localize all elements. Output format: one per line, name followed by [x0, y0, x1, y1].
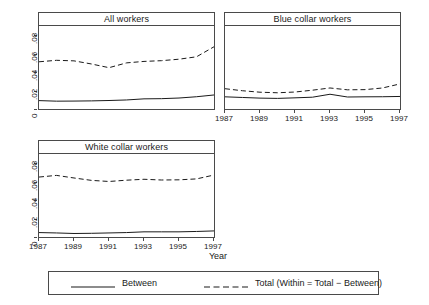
panel-blue-collar-workers: Blue collar workers: [224, 12, 401, 110]
plot-area: [38, 26, 215, 110]
plot-lines: [225, 26, 400, 109]
legend-label: Between: [122, 279, 157, 288]
x-tick-label: 1997: [199, 243, 227, 251]
y-tick-mark: [34, 109, 37, 110]
x-tick-label: 1995: [350, 115, 378, 123]
x-tick-mark: [73, 238, 74, 241]
plot-area: [224, 26, 401, 110]
panel-title-bar: Blue collar workers: [224, 12, 401, 26]
x-tick-mark: [143, 238, 144, 241]
plot-lines: [39, 26, 214, 109]
y-tick-label: 0: [31, 114, 39, 118]
series-line: [39, 95, 214, 101]
y-tick-label: .04: [31, 198, 39, 209]
x-tick-mark: [294, 110, 295, 113]
legend-label: Total (Within = Total − Between): [255, 279, 382, 288]
x-tick-mark: [213, 238, 214, 241]
x-tick-label: 1993: [315, 115, 343, 123]
series-line: [39, 47, 214, 68]
legend-swatch-solid-icon: [71, 278, 115, 288]
plot-lines: [39, 154, 214, 237]
panel-title-bar: All workers: [38, 12, 215, 26]
y-tick-mark: [34, 237, 37, 238]
panel-white-collar-workers: White collar workers: [38, 140, 215, 238]
panel-title: All workers: [104, 15, 149, 24]
y-tick-label: .08: [31, 161, 39, 172]
panel-title-bar: White collar workers: [38, 140, 215, 154]
series-line: [39, 175, 214, 181]
legend: Between Total (Within = Total − Between): [48, 271, 379, 295]
legend-entry-total: Total (Within = Total − Between): [204, 272, 382, 294]
series-line: [225, 84, 400, 93]
x-tick-label: 1989: [59, 243, 87, 251]
y-tick-label: .06: [31, 52, 39, 63]
x-tick-mark: [108, 238, 109, 241]
x-tick-mark: [178, 238, 179, 241]
y-tick-label: .06: [31, 180, 39, 191]
y-tick-label: .04: [31, 70, 39, 81]
series-line: [39, 231, 214, 234]
plot-area: [38, 154, 215, 238]
series-line: [225, 94, 400, 98]
panel-title: White collar workers: [85, 143, 168, 152]
legend-entry-between: Between: [71, 272, 157, 294]
y-tick-label: .02: [31, 88, 39, 99]
x-tick-mark: [329, 110, 330, 113]
figure-panel-chart: All workers Blue collar workers White co…: [0, 0, 429, 305]
x-tick-label: 1997: [385, 115, 413, 123]
x-tick-label: 1991: [280, 115, 308, 123]
x-axis-title: Year: [188, 252, 248, 261]
panel-all-workers: All workers: [38, 12, 215, 110]
y-tick-label: .02: [31, 216, 39, 227]
y-tick-label: .08: [31, 33, 39, 44]
legend-swatch-dashed-icon: [204, 278, 248, 288]
x-tick-label: 1991: [94, 243, 122, 251]
x-tick-mark: [259, 110, 260, 113]
x-tick-label: 1987: [24, 243, 52, 251]
x-tick-label: 1987: [210, 115, 238, 123]
x-tick-label: 1989: [245, 115, 273, 123]
x-tick-label: 1995: [164, 243, 192, 251]
panel-title: Blue collar workers: [274, 15, 352, 24]
x-tick-mark: [224, 110, 225, 113]
x-tick-mark: [38, 238, 39, 241]
x-tick-mark: [364, 110, 365, 113]
x-tick-label: 1993: [129, 243, 157, 251]
x-tick-mark: [399, 110, 400, 113]
